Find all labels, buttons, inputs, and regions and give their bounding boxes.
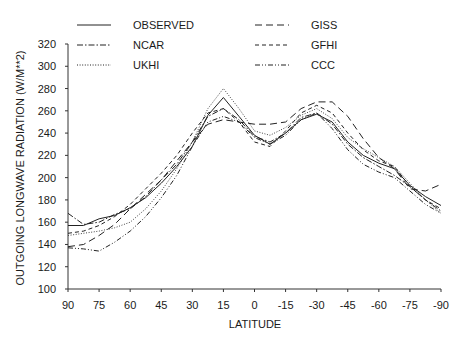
legend-label: OBSERVED — [133, 19, 194, 31]
series-line-ncar — [68, 109, 441, 225]
x-tick-label: 15 — [217, 299, 229, 311]
legend-item-observed: OBSERVED — [77, 19, 194, 31]
y-tick-label: 220 — [38, 149, 56, 161]
x-tick-label: 75 — [93, 299, 105, 311]
x-tick-label: 45 — [155, 299, 167, 311]
chart-canvas: OBSERVEDNCARUKHIGISSGFHICCC 100120140160… — [0, 0, 463, 344]
legend-label: NCAR — [133, 39, 164, 51]
legend-item-ccc: CCC — [255, 59, 335, 71]
y-tick-label: 320 — [38, 38, 56, 50]
legend-item-giss: GISS — [255, 19, 337, 31]
x-axis-label: LATITUDE — [229, 318, 281, 330]
y-tick-label: 280 — [38, 83, 56, 95]
x-tick-label: -60 — [371, 299, 387, 311]
y-tick-label: 100 — [38, 283, 56, 295]
legend-item-gfhi: GFHI — [255, 39, 337, 51]
x-tick-label: -75 — [402, 299, 418, 311]
x-tick-label: -90 — [433, 299, 449, 311]
y-tick-label: 140 — [38, 238, 56, 250]
legend-label: CCC — [311, 59, 335, 71]
y-tick-label: 120 — [38, 261, 56, 273]
y-tick-label: 240 — [38, 127, 56, 139]
x-tick-label: 30 — [186, 299, 198, 311]
legend-label: GFHI — [311, 39, 337, 51]
plot-lines — [68, 89, 441, 252]
axes: 1001201401601802002202402602803003209075… — [38, 38, 449, 311]
y-tick-label: 260 — [38, 105, 56, 117]
y-tick-label: 200 — [38, 172, 56, 184]
x-tick-label: 60 — [124, 299, 136, 311]
x-tick-label: 90 — [62, 299, 74, 311]
legend-label: UKHI — [133, 59, 159, 71]
x-tick-label: -45 — [340, 299, 356, 311]
y-axis-label: OUTGOING LONGWAVE RADIATION (W/M**2) — [14, 50, 26, 285]
olr-latitude-chart: OBSERVEDNCARUKHIGISSGFHICCC 100120140160… — [0, 0, 463, 344]
y-tick-label: 180 — [38, 194, 56, 206]
y-tick-label: 160 — [38, 216, 56, 228]
legend: OBSERVEDNCARUKHIGISSGFHICCC — [77, 19, 337, 71]
x-tick-label: -15 — [278, 299, 294, 311]
x-tick-label: 0 — [251, 299, 257, 311]
legend-item-ncar: NCAR — [77, 39, 164, 51]
series-line-ccc — [68, 113, 441, 251]
series-line-giss — [68, 102, 441, 247]
legend-label: GISS — [311, 19, 337, 31]
y-tick-label: 300 — [38, 60, 56, 72]
legend-item-ukhi: UKHI — [77, 59, 159, 71]
x-tick-label: -30 — [309, 299, 325, 311]
